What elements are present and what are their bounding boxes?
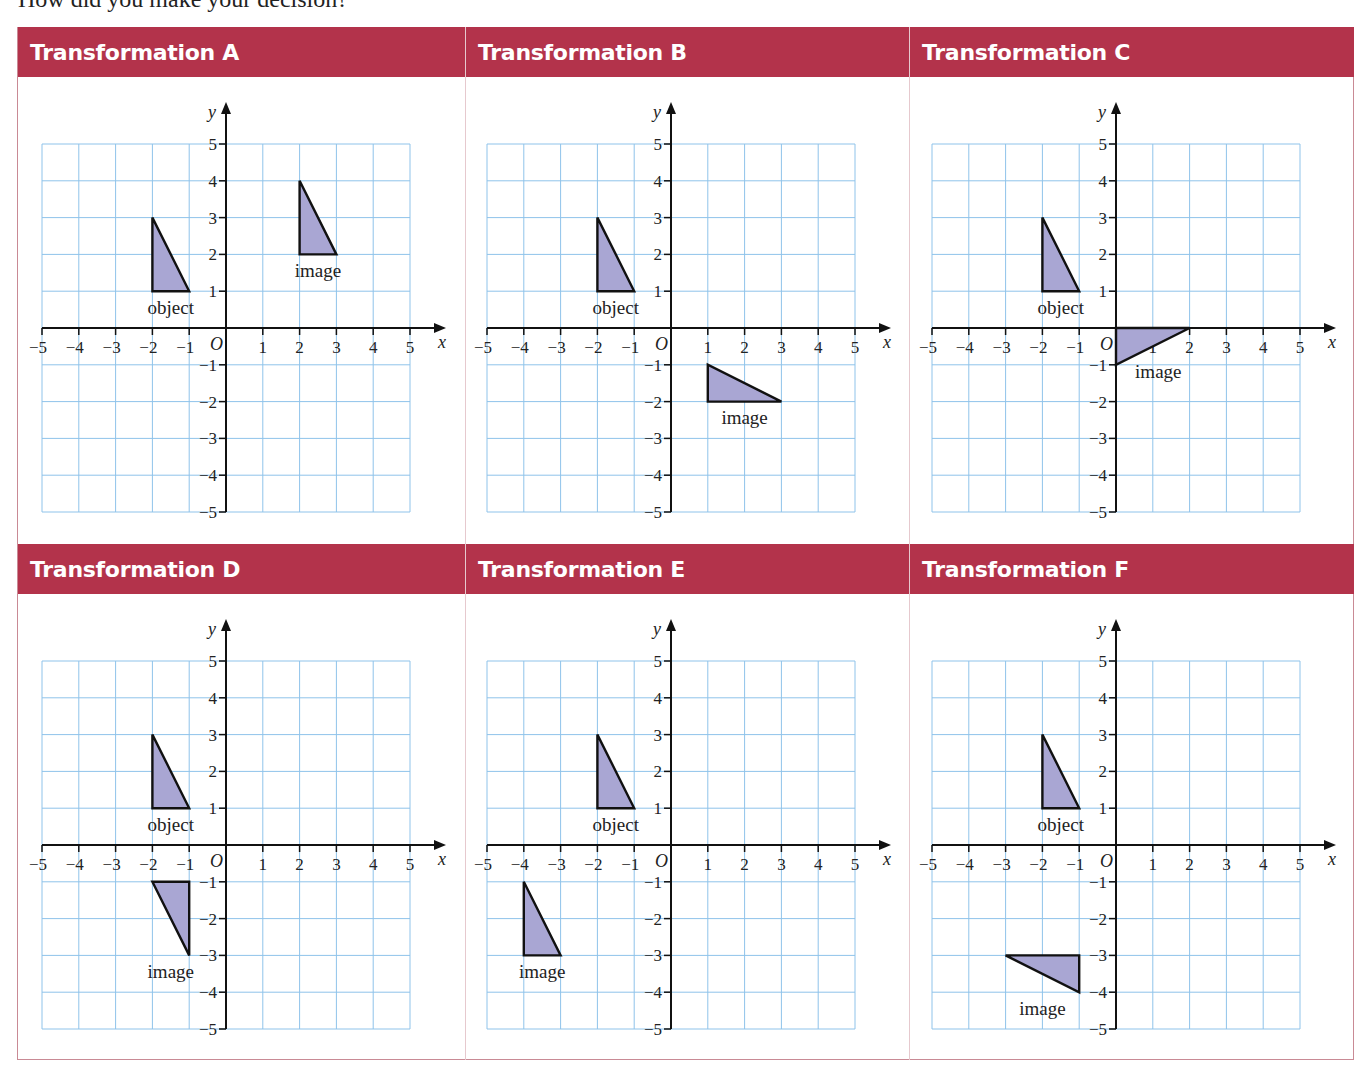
x-tick-label: −5 (29, 338, 47, 357)
y-tick-label: −3 (644, 946, 662, 965)
x-tick-label: −1 (1066, 855, 1084, 874)
y-tick-label: 3 (209, 726, 218, 745)
axes (487, 112, 881, 512)
x-tick-label: 2 (740, 855, 749, 874)
origin-label: O (655, 851, 668, 871)
y-axis-arrow-icon (221, 619, 231, 631)
image-label: image (1135, 361, 1181, 382)
x-tick-label: 5 (406, 338, 415, 357)
x-tick-label: 1 (259, 855, 268, 874)
y-tick-label: −5 (644, 1020, 662, 1039)
x-tick-label: −3 (993, 338, 1011, 357)
graph-e: −5−4−3−2−112345−5−4−3−2−112345Oxyobjecti… (474, 619, 891, 1039)
x-axis-label: x (882, 332, 891, 352)
x-tick-label: −1 (176, 338, 194, 357)
y-tick-label: 1 (1099, 282, 1108, 301)
x-tick-label: 1 (704, 855, 713, 874)
image-label: image (721, 407, 767, 428)
x-axis-label: x (1327, 332, 1336, 352)
graph-a: −5−4−3−2−112345−5−4−3−2−112345Oxyobjecti… (29, 102, 446, 522)
object-label: object (148, 297, 195, 318)
y-axis-label: y (206, 102, 216, 122)
x-axis-label: x (1327, 849, 1336, 869)
y-tick-label: 2 (209, 245, 218, 264)
x-tick-label: −1 (1066, 338, 1084, 357)
x-tick-label: −1 (621, 338, 639, 357)
object-label: object (593, 297, 640, 318)
x-tick-label: −4 (511, 338, 530, 357)
graph-b: −5−4−3−2−112345−5−4−3−2−112345Oxyobjecti… (474, 102, 891, 522)
y-tick-label: −1 (644, 356, 662, 375)
x-tick-label: −4 (66, 855, 85, 874)
y-tick-label: 2 (654, 762, 663, 781)
y-tick-label: 4 (209, 172, 218, 191)
x-tick-label: 2 (295, 855, 304, 874)
x-tick-label: 4 (369, 855, 378, 874)
y-tick-label: 4 (209, 689, 218, 708)
y-tick-label: −5 (644, 503, 662, 522)
y-axis-label: y (651, 102, 661, 122)
axes (932, 629, 1326, 1029)
y-tick-label: −2 (199, 910, 217, 929)
y-tick-label: 5 (209, 652, 218, 671)
y-tick-label: 4 (654, 689, 663, 708)
y-tick-label: 2 (1099, 245, 1108, 264)
x-axis-label: x (882, 849, 891, 869)
origin-label: O (1100, 334, 1113, 354)
y-axis-arrow-icon (666, 102, 676, 114)
x-tick-label: 4 (369, 338, 378, 357)
y-axis-arrow-icon (221, 102, 231, 114)
y-axis-label: y (206, 619, 216, 639)
object-label: object (148, 814, 195, 835)
y-tick-label: 4 (1099, 172, 1108, 191)
axes (932, 112, 1326, 512)
y-tick-label: 1 (1099, 799, 1108, 818)
y-tick-label: 5 (1099, 652, 1108, 671)
x-tick-label: −3 (993, 855, 1011, 874)
y-tick-label: −1 (199, 873, 217, 892)
x-tick-label: 2 (295, 338, 304, 357)
x-tick-label: 4 (1259, 855, 1268, 874)
x-tick-label: 1 (1149, 855, 1158, 874)
origin-label: O (210, 851, 223, 871)
y-tick-label: 1 (209, 799, 218, 818)
x-tick-label: 4 (1259, 338, 1268, 357)
x-tick-label: 2 (1185, 338, 1194, 357)
x-tick-label: 3 (777, 338, 786, 357)
x-tick-label: 5 (1296, 338, 1305, 357)
y-axis-arrow-icon (1111, 102, 1121, 114)
y-tick-label: −4 (199, 466, 218, 485)
y-tick-label: 5 (654, 652, 663, 671)
graph-c: −5−4−3−2−112345−5−4−3−2−112345Oxyobjecti… (919, 102, 1336, 522)
y-axis-label: y (1096, 102, 1106, 122)
x-tick-label: −2 (139, 855, 157, 874)
x-axis-label: x (437, 849, 446, 869)
origin-label: O (210, 334, 223, 354)
y-tick-label: 2 (654, 245, 663, 264)
x-tick-label: 5 (406, 855, 415, 874)
y-tick-label: −4 (199, 983, 218, 1002)
y-tick-label: −5 (1089, 1020, 1107, 1039)
x-tick-label: 5 (851, 338, 860, 357)
y-tick-label: 1 (654, 799, 663, 818)
y-tick-label: −3 (1089, 429, 1107, 448)
x-tick-label: −5 (919, 338, 937, 357)
x-tick-label: −1 (176, 855, 194, 874)
object-label: object (1038, 814, 1085, 835)
y-tick-label: −4 (644, 983, 663, 1002)
x-tick-label: 2 (740, 338, 749, 357)
y-tick-label: 3 (1099, 209, 1108, 228)
x-tick-label: −2 (1029, 338, 1047, 357)
image-label: image (148, 961, 194, 982)
y-tick-label: 4 (654, 172, 663, 191)
x-tick-label: −4 (511, 855, 530, 874)
y-tick-label: −3 (1089, 946, 1107, 965)
x-tick-label: 1 (259, 338, 268, 357)
y-tick-label: 2 (209, 762, 218, 781)
x-tick-label: 3 (332, 855, 341, 874)
x-tick-label: −5 (474, 855, 492, 874)
y-tick-label: −5 (199, 503, 217, 522)
image-label: image (519, 961, 565, 982)
x-tick-label: −2 (1029, 855, 1047, 874)
x-tick-label: −4 (956, 855, 975, 874)
